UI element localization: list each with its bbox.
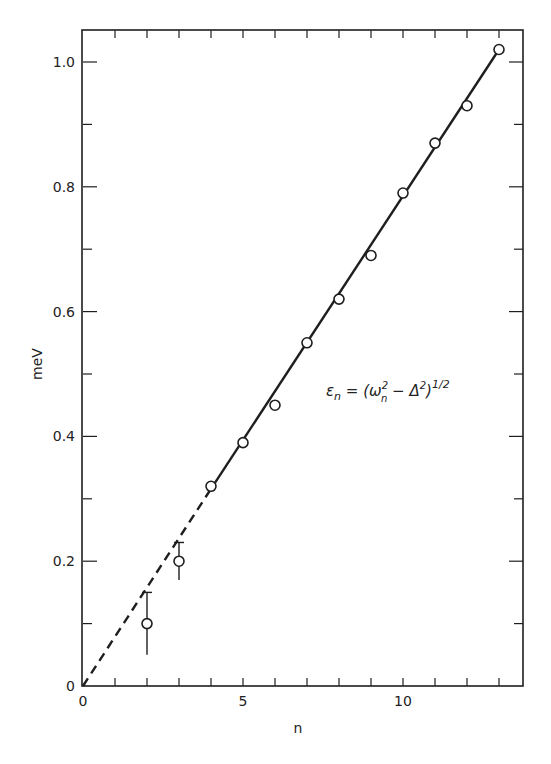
- annotation-superscript-half: 1/2: [432, 378, 450, 391]
- chart-plot: 051000.20.40.60.81.0 n meV εn = (ω2n − Δ…: [0, 0, 551, 764]
- data-point-marker: [206, 481, 216, 491]
- y-tick-label: 0: [66, 678, 75, 694]
- chart-figure: 051000.20.40.60.81.0 n meV εn = (ω2n − Δ…: [0, 0, 551, 764]
- fit-line-solid: [211, 50, 499, 489]
- plot-frame: [82, 30, 523, 686]
- annotation-equals-omega: = (ω: [341, 382, 382, 400]
- data-point-marker: [270, 400, 280, 410]
- plot-border: [82, 30, 523, 686]
- annotation-subscript-n: n: [334, 390, 341, 403]
- data-point-marker: [398, 188, 408, 198]
- data-point-marker: [174, 556, 184, 566]
- equation-annotation: εn = (ω2n − Δ2)1/2: [326, 378, 450, 404]
- data-point-marker: [142, 619, 152, 629]
- y-tick-label: 0.8: [53, 179, 75, 195]
- data-point-marker: [302, 338, 312, 348]
- y-tick-label: 1.0: [53, 54, 75, 70]
- axis-ticks: [83, 30, 523, 686]
- x-tick-label: 5: [239, 693, 248, 709]
- y-axis-label: meV: [29, 348, 45, 380]
- data-point-marker: [430, 138, 440, 148]
- annotation-minus-delta: − Δ: [387, 382, 419, 400]
- fit-line-dashed: [83, 489, 211, 686]
- y-tick-label: 0.2: [53, 553, 75, 569]
- data-point-marker: [334, 294, 344, 304]
- x-axis-label: n: [294, 720, 303, 736]
- data-point-marker: [494, 45, 504, 55]
- data-point-marker: [366, 250, 376, 260]
- annotation-epsilon: ε: [326, 382, 334, 400]
- annotation-close-paren: ): [425, 382, 432, 400]
- x-tick-label: 0: [79, 693, 88, 709]
- x-tick-label: 10: [394, 693, 412, 709]
- data-points: [142, 45, 504, 629]
- y-tick-label: 0.4: [53, 428, 75, 444]
- y-tick-label: 0.6: [53, 304, 75, 320]
- data-point-marker: [462, 101, 472, 111]
- data-point-marker: [238, 438, 248, 448]
